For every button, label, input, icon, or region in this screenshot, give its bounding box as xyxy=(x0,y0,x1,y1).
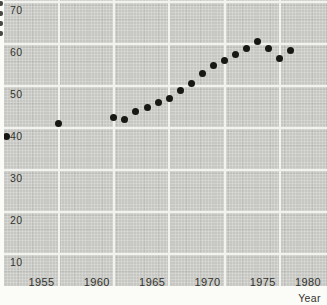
data-point xyxy=(155,99,162,106)
y-tick-label: 30 xyxy=(10,172,22,184)
data-point xyxy=(144,104,151,111)
y-tick-label: 40 xyxy=(10,130,22,142)
v-gridline xyxy=(168,0,170,286)
data-point xyxy=(199,70,206,77)
cropped-text-fragment xyxy=(0,1,3,6)
cropped-text-fragment xyxy=(0,31,3,36)
data-point xyxy=(210,62,217,69)
x-tick-label: 1980 xyxy=(266,276,321,286)
data-point xyxy=(166,95,173,102)
data-point xyxy=(110,114,117,121)
x-tick-label: 1970 xyxy=(166,276,221,286)
x-tick-label: 1955 xyxy=(4,276,55,286)
left-page-margin xyxy=(0,0,4,305)
data-point xyxy=(4,133,10,140)
cropped-text-fragment xyxy=(0,11,3,16)
x-tick-label: 1965 xyxy=(110,276,165,286)
data-point xyxy=(177,87,184,94)
x-axis-title: Year xyxy=(298,292,321,304)
data-point xyxy=(276,55,283,62)
data-point xyxy=(221,57,228,64)
y-tick-label: 60 xyxy=(10,46,22,58)
scatter-chart-figure: 70605040302010195519601965197019751980 Y… xyxy=(0,0,327,305)
y-tick-label: 20 xyxy=(10,214,22,226)
data-point xyxy=(265,45,272,52)
data-point xyxy=(232,51,239,58)
data-point xyxy=(287,47,294,54)
y-tick-label: 70 xyxy=(10,4,22,16)
cropped-text-fragment xyxy=(0,21,3,26)
data-point xyxy=(132,108,139,115)
data-point xyxy=(121,116,128,123)
x-tick-label: 1960 xyxy=(55,276,110,286)
data-point xyxy=(243,45,250,52)
v-gridline xyxy=(113,0,115,286)
plot-area: 70605040302010195519601965197019751980 xyxy=(4,0,327,286)
v-gridline xyxy=(58,0,60,286)
v-gridline xyxy=(224,0,226,286)
y-tick-label: 10 xyxy=(10,256,22,268)
y-tick-label: 50 xyxy=(10,88,22,100)
v-gridline xyxy=(279,0,281,286)
